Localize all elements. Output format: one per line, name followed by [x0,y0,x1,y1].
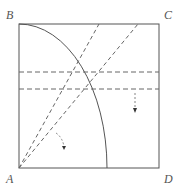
label-c: C [164,8,173,22]
label-d: D [163,172,173,186]
fold-arrow-icon [56,133,64,146]
label-b: B [6,8,14,22]
dashed-diagonal-1 [19,24,99,168]
arrowhead-icon [62,146,66,150]
dashed-diagonal-2 [19,24,138,168]
folding-diagram: B C A D [0,0,181,188]
arrowhead-icon [133,108,137,113]
label-a: A [5,172,14,186]
square-abcd [19,24,159,168]
